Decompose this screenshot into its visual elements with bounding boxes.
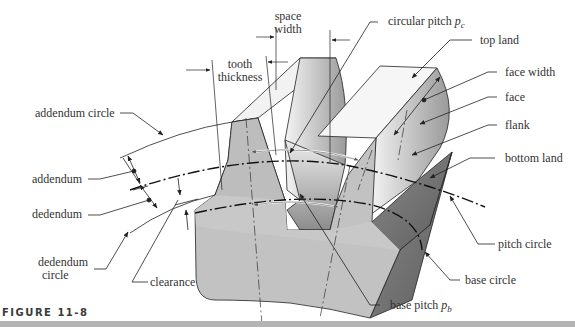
label-pitch-circle: pitch circle: [498, 238, 552, 251]
label-dedendum: dedendum: [32, 208, 82, 221]
label-addendum: addendum: [32, 173, 82, 186]
label-flank: flank: [505, 119, 530, 132]
label-space-width: space width: [258, 10, 318, 36]
label-base-pitch: base pitch pb: [390, 299, 452, 316]
label-tooth-thickness-line2: thickness: [210, 71, 270, 84]
figure-caption: FIGURE 11-8: [2, 307, 88, 318]
label-dedendum-circle: dedendum circle: [38, 256, 88, 282]
label-addendum-circle: addendum circle: [35, 107, 115, 120]
circular-pitch-subscript: c: [461, 20, 465, 30]
gear-body: [195, 58, 452, 318]
label-clearance: clearance: [150, 276, 195, 289]
label-dedendum-circle-line2: circle: [38, 269, 88, 282]
caption-divider: [0, 321, 575, 327]
label-space-width-line2: width: [258, 23, 318, 36]
label-base-pitch-text: base pitch: [390, 298, 438, 312]
base-pitch-subscript: b: [447, 304, 452, 314]
label-top-land: top land: [480, 34, 519, 47]
addendum-dedendum-dimension: [123, 156, 198, 230]
label-bottom-land: bottom land: [505, 152, 563, 165]
label-base-circle: base circle: [465, 274, 516, 287]
label-circular-pitch-text: circular pitch: [388, 14, 452, 28]
label-face-width: face width: [505, 66, 555, 79]
label-circular-pitch: circular pitch pc: [388, 15, 465, 32]
label-tooth-thickness: tooth thickness: [210, 58, 270, 84]
addendum-circle-line: [120, 122, 232, 158]
label-face: face: [505, 91, 525, 104]
